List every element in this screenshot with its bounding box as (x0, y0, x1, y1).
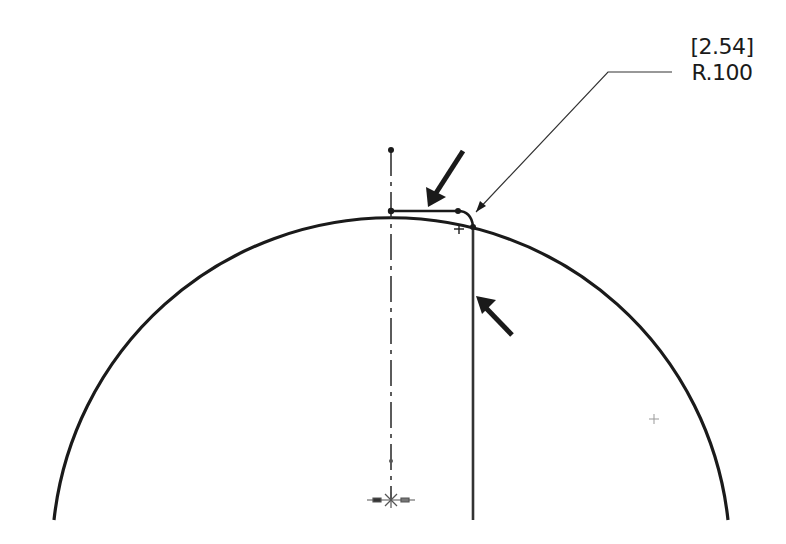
arc-center-mark-icon (649, 414, 659, 424)
dimension-leader[interactable] (476, 72, 672, 212)
dimension-alternate-value[interactable]: [2.54] (672, 34, 772, 60)
pointer-arrow-side-icon (476, 296, 512, 335)
sketch-point-fillet-start[interactable] (455, 208, 461, 214)
sketch-point-fillet-end[interactable] (470, 224, 476, 230)
sketch-point-corner[interactable] (388, 208, 394, 214)
sketch-point-top[interactable] (388, 147, 394, 153)
pointer-arrow-top-icon (426, 151, 463, 207)
dimension-primary-value[interactable]: R.100 (672, 60, 772, 86)
cad-drawing-canvas (0, 0, 786, 544)
sketch-point-centerline[interactable] (389, 459, 393, 463)
origin-icon (367, 492, 415, 508)
